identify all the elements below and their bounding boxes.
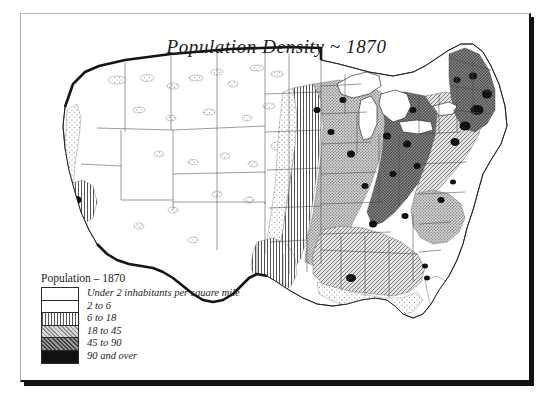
legend-swatch-under-2	[42, 288, 78, 301]
city-baltimore	[451, 138, 460, 146]
plate-shadow-right	[529, 17, 534, 386]
legend-label-under-2: Under 2 inhabitants per square mile	[87, 287, 269, 300]
city-new-york	[471, 105, 484, 115]
city-atlanta	[402, 213, 409, 219]
city-richmond	[438, 197, 445, 203]
legend-swatch-18-to-45	[42, 326, 78, 339]
legend-label-2-to-6: 2 to 6	[87, 300, 269, 313]
legend-label-6-to-18: 6 to 18	[87, 312, 269, 325]
city-indianapolis	[383, 133, 391, 140]
city-milwaukee	[340, 97, 347, 103]
plate-shadow-bottom	[24, 381, 533, 386]
legend-body: Under 2 inhabitants per square mile 2 to…	[39, 287, 269, 362]
city-cleveland	[410, 107, 417, 113]
city-st-louis	[347, 151, 355, 158]
legend-label-90-and-over: 90 and over	[87, 350, 269, 363]
city-birmingham	[369, 221, 377, 228]
legend-swatch-2-to-6	[42, 301, 78, 314]
city-savannah	[422, 264, 428, 269]
map-plate: Population Density ~ 1870 Population – 1…	[20, 13, 531, 382]
page-title: Population Density ~ 1870	[21, 36, 532, 58]
city-philadelphia	[460, 122, 471, 131]
city-washington	[450, 180, 456, 185]
legend: Population – 1870 Under 2 inhabitants pe…	[39, 272, 269, 362]
legend-swatch-90-and-over	[42, 351, 78, 364]
legend-swatch-45-to-90	[42, 338, 78, 351]
city-quincy	[328, 129, 335, 135]
legend-label-18-to-45: 18 to 45	[87, 325, 269, 338]
legend-label-45-to-90: 45 to 90	[87, 337, 269, 350]
city-louisville	[390, 171, 397, 177]
city-des-moines	[314, 107, 321, 113]
legend-title: Population – 1870	[39, 272, 269, 284]
city-jacksonville	[424, 276, 430, 281]
city-new-orleans	[346, 274, 356, 282]
legend-swatch-column	[41, 287, 79, 364]
city-memphis	[362, 183, 369, 189]
florida-sparse	[425, 276, 453, 320]
legend-swatch-6-to-18	[42, 313, 78, 326]
city-cincinnati	[403, 141, 411, 148]
legend-label-column: Under 2 inhabitants per square mile 2 to…	[87, 287, 269, 362]
